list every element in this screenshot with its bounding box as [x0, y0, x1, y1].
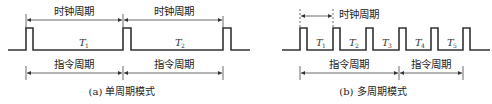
clock-cycle-dimension-b	[300, 9, 333, 28]
period-label-b-t5: T 5	[447, 37, 457, 49]
period-label-a-t2: T 2	[175, 37, 185, 49]
svg-text:3: 3	[388, 42, 392, 49]
svg-text:2: 2	[181, 42, 185, 49]
caption-a: (a) 单周期模式	[89, 85, 156, 97]
instruction-cycle-label-b1: 指令周期	[329, 58, 369, 70]
clock-cycle-label-b: 时钟周期	[339, 8, 379, 20]
clock-waveform-a	[8, 28, 250, 50]
instruction-cycle-label-a2: 指令周期	[154, 58, 194, 70]
instruction-cycle-label-a1: 指令周期	[54, 58, 94, 70]
cycle-timing-diagram: 时钟周期 时钟周期 T 1 T 2 指令周期 指令周期 (a) 单周期模式	[0, 0, 492, 104]
svg-text:1: 1	[322, 42, 326, 49]
svg-text:1: 1	[85, 42, 89, 49]
caption-b: (b) 多周期模式	[339, 85, 406, 97]
svg-text:5: 5	[453, 42, 457, 49]
instruction-cycle-label-b2: 指令周期	[411, 58, 451, 70]
period-label-b-t3: T 3	[382, 37, 392, 49]
svg-text:4: 4	[421, 42, 425, 49]
period-label-b-t2: T 2	[349, 37, 359, 49]
period-label-b-t4: T 4	[415, 37, 425, 49]
diagram-b-multi-cycle: 时钟周期 T 1 T 2 T 3 T 4 T 5 指令周期	[282, 8, 490, 97]
clock-cycle-label-a2: 时钟周期	[154, 5, 194, 17]
period-label-b-t1: T 1	[316, 37, 326, 49]
diagram-a-single-cycle: 时钟周期 时钟周期 T 1 T 2 指令周期 指令周期 (a) 单周期模式	[8, 5, 250, 97]
clock-cycle-label-a1: 时钟周期	[54, 5, 94, 17]
period-label-a-t1: T 1	[79, 37, 89, 49]
svg-text:2: 2	[355, 42, 359, 49]
